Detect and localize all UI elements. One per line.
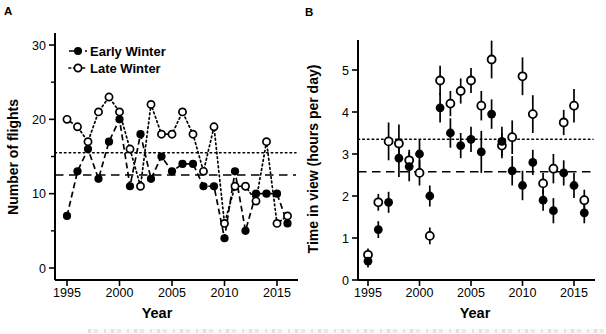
y-tick-label: 3 bbox=[342, 148, 349, 162]
y-tick-label: 1 bbox=[342, 232, 349, 246]
late-winter-marker bbox=[95, 108, 102, 115]
late-winter-marker bbox=[63, 116, 70, 123]
early-winter-marker bbox=[559, 169, 568, 178]
y-tick-label: 20 bbox=[32, 113, 46, 127]
early-winter-marker bbox=[487, 110, 496, 119]
x-tick-label: 2005 bbox=[158, 286, 186, 300]
late-winter-marker bbox=[158, 131, 165, 138]
early-winter-marker bbox=[436, 103, 445, 112]
panel-letter: B bbox=[305, 6, 313, 18]
x-tick-label: 2000 bbox=[406, 286, 434, 300]
early-winter-marker bbox=[384, 198, 393, 207]
early-winter-marker bbox=[252, 190, 260, 198]
late-winter-marker bbox=[231, 183, 238, 190]
x-ticks: 19952000200520102015 bbox=[53, 280, 291, 300]
late-winter-marker bbox=[385, 137, 393, 145]
legend-label: Late Winter bbox=[90, 61, 161, 76]
panel-B: B01234519952000200520102015Time in view … bbox=[305, 6, 595, 321]
early-winter-marker bbox=[189, 160, 197, 168]
early-winter-marker bbox=[405, 162, 414, 171]
late-winter-marker bbox=[284, 212, 291, 219]
y-tick-label: 0 bbox=[342, 274, 349, 288]
legend-label: Early Winter bbox=[90, 44, 166, 59]
x-tick-label: 2015 bbox=[263, 286, 291, 300]
x-ticks: 19952000200520102015 bbox=[354, 280, 588, 300]
two-panel-figure: A010203019952000200520102015Number of fl… bbox=[0, 0, 606, 334]
early-winter-marker bbox=[73, 167, 81, 175]
late-winter-marker bbox=[105, 93, 112, 100]
early-winter-marker bbox=[115, 115, 123, 123]
early-winter-marker bbox=[262, 190, 270, 198]
early-winter-marker bbox=[63, 212, 71, 220]
early-winter-marker bbox=[147, 175, 155, 183]
y-tick-label: 30 bbox=[32, 39, 46, 53]
late-winter-marker bbox=[436, 77, 444, 85]
early-winter-marker bbox=[456, 141, 465, 150]
late-winter-marker bbox=[221, 220, 228, 227]
late-winter-marker bbox=[374, 198, 382, 206]
late-winter-marker bbox=[539, 179, 547, 187]
y-tick-label: 0 bbox=[39, 262, 46, 276]
early-winter-marker bbox=[168, 167, 176, 175]
early-winter-marker bbox=[508, 166, 517, 175]
x-tick-label: 2005 bbox=[457, 286, 485, 300]
panel-A: A010203019952000200520102015Number of fl… bbox=[4, 5, 298, 321]
late-winter-marker bbox=[116, 108, 123, 115]
early-winter-marker bbox=[157, 152, 165, 160]
late-winter-marker bbox=[189, 131, 196, 138]
late-winter-marker bbox=[168, 131, 175, 138]
early-winter-marker bbox=[364, 257, 373, 266]
early-winter-marker bbox=[580, 208, 589, 217]
x-axis-title: Year bbox=[142, 305, 173, 321]
late-winter-marker bbox=[426, 232, 434, 240]
early-winter-marker bbox=[374, 225, 383, 234]
late-winter-marker bbox=[242, 183, 249, 190]
late-winter-marker bbox=[210, 123, 217, 130]
early-winter-markers bbox=[364, 103, 589, 265]
x-tick-label: 2015 bbox=[560, 286, 588, 300]
x-tick-label: 2010 bbox=[509, 286, 537, 300]
late-winter-marker bbox=[560, 119, 568, 127]
late-winter-marker bbox=[477, 102, 485, 110]
late-winter-error-bars bbox=[368, 41, 584, 262]
early-winter-marker bbox=[570, 181, 579, 190]
y-ticks: 0102030 bbox=[32, 39, 55, 276]
x-tick-label: 1995 bbox=[53, 286, 81, 300]
panel-letter: A bbox=[4, 5, 12, 17]
late-winter-marker bbox=[446, 100, 454, 108]
early-winter-marker bbox=[446, 129, 455, 138]
y-tick-label: 2 bbox=[342, 190, 349, 204]
late-winter-marker bbox=[273, 220, 280, 227]
early-winter-marker bbox=[498, 137, 507, 146]
early-winter-marker bbox=[199, 182, 207, 190]
early-winter-marker bbox=[273, 190, 281, 198]
late-winter-marker bbox=[508, 133, 516, 141]
y-ticks: 012345 bbox=[342, 64, 358, 288]
early-winter-marker bbox=[467, 135, 476, 144]
legend-filled-circle-marker bbox=[74, 47, 82, 55]
late-winter-marker bbox=[457, 87, 465, 95]
late-winter-marker bbox=[200, 168, 207, 175]
early-winter-marker bbox=[210, 182, 218, 190]
late-winter-marker bbox=[126, 145, 133, 152]
late-winter-marker bbox=[549, 165, 557, 173]
late-winter-marker bbox=[147, 101, 154, 108]
late-winter-marker bbox=[570, 102, 578, 110]
late-winter-marker bbox=[395, 140, 403, 148]
early-winter-marker bbox=[136, 130, 144, 138]
early-winter-marker bbox=[241, 227, 249, 235]
late-winter-marker bbox=[416, 169, 424, 177]
y-tick-label: 5 bbox=[342, 64, 349, 78]
late-winter-marker bbox=[84, 138, 91, 145]
early-winter-marker bbox=[220, 234, 228, 242]
late-winter-marker bbox=[137, 183, 144, 190]
early-winter-marker bbox=[518, 181, 527, 190]
legend-open-circle-marker bbox=[74, 64, 81, 71]
early-winter-error-bars bbox=[368, 93, 584, 267]
early-winter-marker bbox=[283, 219, 291, 227]
x-tick-label: 1995 bbox=[354, 286, 382, 300]
x-axis-title: Year bbox=[460, 305, 491, 321]
cropped-caption-line bbox=[88, 329, 604, 333]
late-winter-marker bbox=[519, 72, 527, 80]
early-winter-marker bbox=[231, 167, 239, 175]
